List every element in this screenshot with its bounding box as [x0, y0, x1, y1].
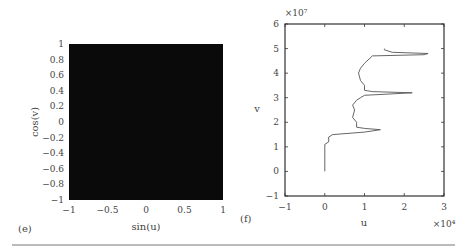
e-ytick-label: 0: [58, 117, 64, 127]
f-xtick-label: 0: [322, 202, 328, 212]
f-xlabel: u: [361, 217, 368, 228]
panel-f: 6543210−1 −10123 u v ×10⁴ ×10⁷ (f): [240, 8, 456, 229]
f-ytick-label: 5: [273, 44, 279, 54]
e-ytick-label: −0.4: [42, 148, 64, 158]
e-xtick-label: 0.5: [177, 205, 192, 215]
f-xtick-label: 2: [401, 202, 407, 212]
f-x-multiplier: ×10⁴: [433, 219, 456, 229]
e-ytick-label: 1: [58, 39, 64, 49]
e-plot-area: [69, 44, 223, 200]
e-xtick-label: −0.5: [97, 205, 119, 215]
e-ytick-label: 0.4: [50, 86, 65, 96]
e-ytick-label: −1: [51, 195, 64, 205]
f-ylabel: v: [253, 103, 260, 114]
panel-e: 10.80.60.40.20−0.2−0.4−0.6−0.8−1 −1−0.50…: [18, 39, 226, 234]
f-series-trajectory: [325, 49, 428, 172]
e-ytick-label: −0.2: [42, 133, 64, 143]
e-ytick-label: −0.6: [42, 164, 64, 174]
e-xtick-label: 1: [220, 205, 226, 215]
f-xtick-label: −1: [278, 202, 291, 212]
f-ytick-label: 2: [273, 117, 279, 127]
figure: 10.80.60.40.20−0.2−0.4−0.6−0.8−1 −1−0.50…: [0, 0, 467, 247]
f-panel-label: (f): [240, 213, 252, 224]
f-plot-frame: [285, 24, 444, 196]
f-ytick-label: 3: [273, 93, 279, 103]
f-xtick-label: 1: [362, 202, 368, 212]
e-ytick-label: 0.2: [50, 101, 64, 111]
f-ytick-label: 1: [273, 142, 279, 152]
e-panel-label: (e): [18, 223, 32, 234]
f-xtick-label: 3: [441, 202, 447, 212]
e-ytick-label: 0.8: [50, 55, 65, 65]
f-y-multiplier: ×10⁷: [285, 8, 308, 18]
f-ytick-label: 4: [273, 68, 279, 78]
e-xtick-label: −1: [62, 205, 75, 215]
e-xtick-label: 0: [143, 205, 149, 215]
e-xlabel: sin(u): [131, 221, 160, 232]
e-ytick-label: 0.6: [50, 70, 65, 80]
f-ytick-label: 6: [273, 19, 279, 29]
e-ylabel: cos(v): [29, 107, 40, 137]
f-ytick-label: −1: [266, 191, 279, 201]
e-ytick-label: −0.8: [42, 179, 64, 189]
f-ytick-label: 0: [273, 166, 279, 176]
